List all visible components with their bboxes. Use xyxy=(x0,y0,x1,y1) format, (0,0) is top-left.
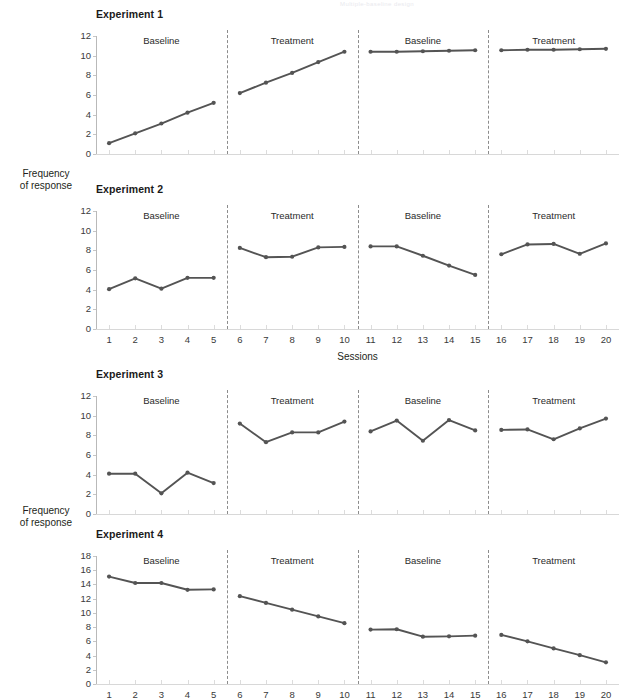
x-tick-mark xyxy=(109,150,110,154)
y-tick-label: 4 xyxy=(86,651,91,661)
x-tick-label: 16 xyxy=(496,690,507,700)
data-point-marker xyxy=(395,418,399,422)
x-tick-mark xyxy=(580,510,581,514)
y-tick-label: 0 xyxy=(86,149,91,159)
x-tick-mark xyxy=(449,150,450,154)
data-point-marker xyxy=(342,621,346,625)
x-tick-mark xyxy=(240,325,241,329)
series-line xyxy=(371,420,476,441)
y-tick-mark xyxy=(93,656,96,657)
data-point-marker xyxy=(264,81,268,85)
y-axis-caption-lower-line1: Frequency xyxy=(0,505,92,517)
x-tick-mark xyxy=(240,150,241,154)
data-point-marker xyxy=(421,439,425,443)
x-tick-mark xyxy=(580,680,581,684)
data-point-marker xyxy=(447,418,451,422)
series-line xyxy=(109,103,214,143)
x-tick-mark xyxy=(135,325,136,329)
y-tick-label: 6 xyxy=(86,450,91,460)
y-tick-label: 6 xyxy=(86,90,91,100)
x-tick-label: 13 xyxy=(418,335,429,345)
x-tick-mark xyxy=(606,680,607,684)
x-axis-line xyxy=(96,329,619,330)
y-tick-label: 6 xyxy=(86,637,91,647)
x-tick-label: 8 xyxy=(289,690,294,700)
y-tick-label: 0 xyxy=(86,509,91,519)
x-tick-mark xyxy=(371,325,372,329)
plot-area: 024681012BaselineTreatmentBaselineTreatm… xyxy=(96,36,619,154)
data-point-marker xyxy=(499,48,503,52)
x-tick-mark xyxy=(397,510,398,514)
plot-area: 0246810121234567891011121314151617181920… xyxy=(96,211,619,329)
x-tick-mark xyxy=(527,510,528,514)
phase-label: Baseline xyxy=(143,35,179,46)
data-point-marker xyxy=(159,287,163,291)
data-point-marker xyxy=(238,421,242,425)
x-tick-mark xyxy=(344,510,345,514)
x-tick-label: 15 xyxy=(470,335,481,345)
x-tick-mark xyxy=(606,150,607,154)
phase-label: Baseline xyxy=(143,555,179,566)
x-tick-label: 6 xyxy=(237,690,242,700)
y-tick-label: 4 xyxy=(86,110,91,120)
phase-divider xyxy=(358,30,359,154)
x-tick-label: 12 xyxy=(391,690,402,700)
x-tick-label: 18 xyxy=(548,690,559,700)
data-point-marker xyxy=(395,50,399,54)
x-tick-mark xyxy=(527,150,528,154)
data-point-marker xyxy=(212,101,216,105)
y-tick-mark xyxy=(93,36,96,37)
data-point-marker xyxy=(473,273,477,277)
data-point-marker xyxy=(499,633,503,637)
y-axis-line xyxy=(96,211,97,329)
x-axis-line xyxy=(96,684,619,685)
series-line xyxy=(240,247,345,257)
y-tick-mark xyxy=(93,556,96,557)
x-tick-mark xyxy=(501,680,502,684)
y-tick-label: 12 xyxy=(80,206,91,216)
x-tick-mark xyxy=(161,325,162,329)
x-tick-mark xyxy=(580,150,581,154)
y-tick-label: 0 xyxy=(86,324,91,334)
y-tick-mark xyxy=(93,231,96,232)
x-tick-mark xyxy=(135,150,136,154)
data-point-marker xyxy=(604,417,608,421)
data-point-marker xyxy=(473,634,477,638)
y-tick-label: 4 xyxy=(86,470,91,480)
y-tick-label: 18 xyxy=(80,551,91,561)
x-tick-mark xyxy=(135,510,136,514)
x-tick-mark xyxy=(188,680,189,684)
x-tick-mark xyxy=(449,325,450,329)
x-tick-mark xyxy=(135,680,136,684)
y-tick-label: 2 xyxy=(86,130,91,140)
x-tick-mark xyxy=(475,150,476,154)
x-tick-mark xyxy=(449,510,450,514)
x-tick-mark xyxy=(527,325,528,329)
data-point-marker xyxy=(552,48,556,52)
x-tick-mark xyxy=(318,325,319,329)
data-point-marker xyxy=(447,49,451,53)
top-cut-caption-fragment: Multiple-baseline design xyxy=(340,1,414,7)
data-point-marker xyxy=(264,601,268,605)
phase-divider xyxy=(358,205,359,329)
x-tick-label: 8 xyxy=(289,335,294,345)
data-point-marker xyxy=(159,581,163,585)
x-tick-mark xyxy=(292,325,293,329)
y-tick-label: 8 xyxy=(86,431,91,441)
data-point-marker xyxy=(604,660,608,664)
data-point-marker xyxy=(185,588,189,592)
phase-label: Treatment xyxy=(532,35,575,46)
y-tick-mark xyxy=(93,494,96,495)
series-line xyxy=(240,596,345,623)
data-point-marker xyxy=(499,252,503,256)
data-point-marker xyxy=(473,48,477,52)
x-tick-mark xyxy=(475,680,476,684)
series-line xyxy=(371,246,476,275)
series-line xyxy=(240,52,345,93)
data-point-marker xyxy=(290,255,294,259)
phase-divider xyxy=(488,30,489,154)
x-tick-mark xyxy=(371,680,372,684)
x-tick-label: 10 xyxy=(339,335,350,345)
data-point-marker xyxy=(159,121,163,125)
x-tick-label: 9 xyxy=(316,335,321,345)
